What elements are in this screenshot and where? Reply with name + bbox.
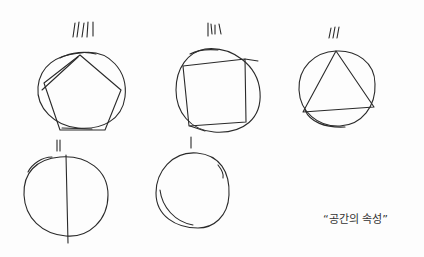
circle-outline <box>38 52 125 128</box>
figure-divided-circle <box>24 140 108 243</box>
figure-square <box>176 23 260 132</box>
square <box>183 59 258 131</box>
figure-triangle <box>299 27 375 127</box>
tally-marks-4 <box>208 23 221 36</box>
tally-marks-5 <box>73 22 93 37</box>
figure-pentagon <box>38 22 125 130</box>
tally-marks-2 <box>57 140 60 151</box>
sketch-canvas: “공간의 속성” <box>0 0 424 257</box>
figure-circle <box>156 137 229 228</box>
caption-label: “공간의 속성” <box>323 210 388 226</box>
tally-marks-3 <box>329 27 339 38</box>
vertical-line <box>66 155 68 243</box>
triangle <box>303 51 374 112</box>
circle-outline <box>156 153 229 228</box>
circle-outline <box>299 51 375 127</box>
